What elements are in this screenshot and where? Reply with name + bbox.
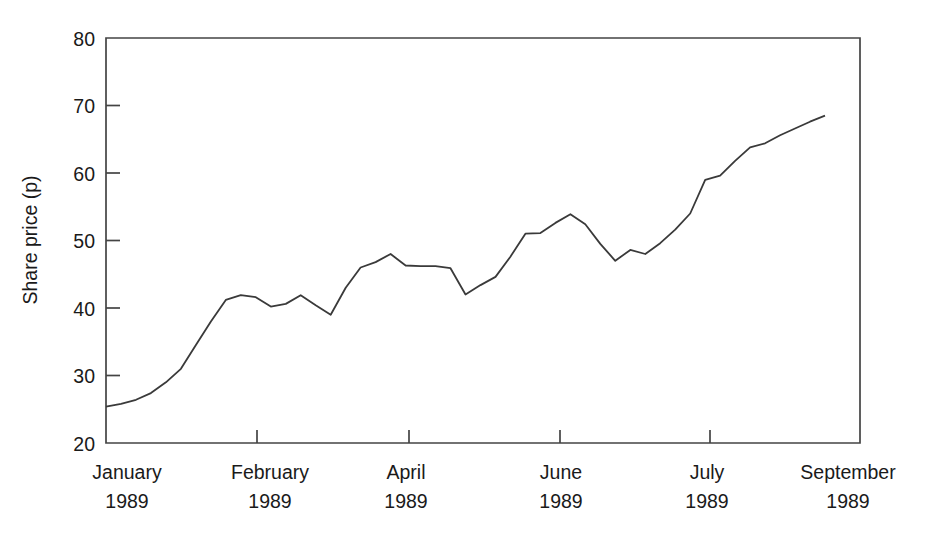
x-axis-tick-labels: January 1989 February 1989 April 1989 Ju…	[92, 461, 896, 512]
y-tick-label-80: 80	[73, 28, 95, 50]
y-tick-label-70: 70	[73, 95, 95, 117]
y-axis-tick-labels: 80 70 60 50 40 30 20	[73, 28, 95, 455]
x-tick-label-year-5: 1989	[685, 490, 728, 512]
share-price-line-chart: 80 70 60 50 40 30 20 Share price (p) Jan…	[0, 0, 929, 546]
x-tick-label-year-1: 1989	[105, 490, 148, 512]
x-tick-label-month-1: January	[92, 461, 162, 483]
x-tick-label-month-2: February	[231, 461, 309, 483]
y-axis-ticks	[106, 106, 120, 376]
y-tick-label-30: 30	[73, 365, 95, 387]
share-price-series-line	[106, 116, 825, 407]
x-tick-label-month-5: July	[690, 461, 725, 483]
y-tick-label-60: 60	[73, 163, 95, 185]
y-tick-label-20: 20	[73, 433, 95, 455]
plot-frame	[106, 38, 860, 443]
x-axis-ticks	[257, 430, 710, 443]
y-axis-title: Share price (p)	[19, 176, 41, 305]
y-tick-label-50: 50	[73, 230, 95, 252]
x-tick-label-year-3: 1989	[384, 490, 427, 512]
y-tick-label-40: 40	[73, 298, 95, 320]
x-tick-label-year-2: 1989	[248, 490, 291, 512]
x-tick-label-year-6: 1989	[826, 490, 869, 512]
x-tick-label-month-3: April	[386, 461, 425, 483]
x-tick-label-year-4: 1989	[539, 490, 582, 512]
figure-container: 80 70 60 50 40 30 20 Share price (p) Jan…	[0, 0, 929, 546]
x-tick-label-month-4: June	[540, 461, 582, 483]
x-tick-label-month-6: September	[800, 461, 896, 483]
